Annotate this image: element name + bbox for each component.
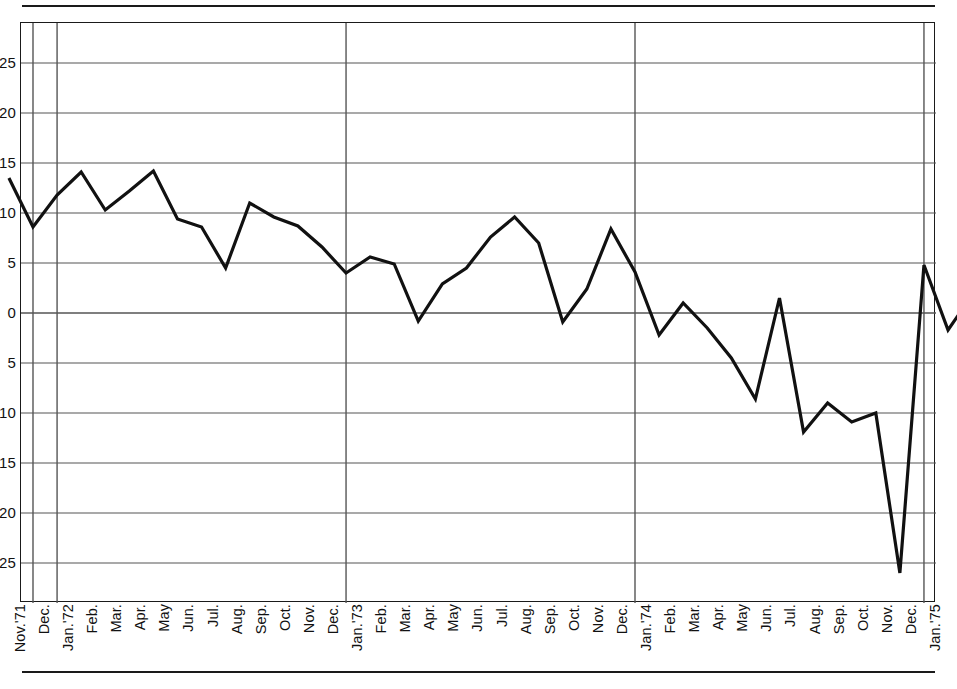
y-axis-tick-label: 25	[0, 55, 16, 70]
x-axis-tick-label: Dec.	[37, 604, 52, 634]
x-axis-tick-label: Jun.	[470, 604, 485, 632]
x-axis-tick-label: Aug.	[808, 604, 823, 634]
x-axis-tick-label: Jul.	[206, 604, 221, 627]
x-axis-tick-label: Nov.'71	[13, 604, 28, 652]
y-axis-tick-labels: 2520151050510152025	[0, 22, 16, 602]
series-line	[9, 171, 957, 573]
x-axis-tick-label: Nov.	[591, 604, 606, 633]
x-axis-tick-label: Dec.	[326, 604, 341, 634]
x-axis-tick-label: Jun.	[759, 604, 774, 632]
x-axis-tick-label: Jun.	[181, 604, 196, 632]
data-series-layer	[21, 23, 936, 603]
y-axis-tick-label: 20	[0, 105, 16, 120]
y-axis-tick-label: 15	[0, 455, 16, 470]
x-axis-tick-label: Jan.'73	[350, 604, 365, 651]
y-axis-tick-label: 5	[7, 255, 16, 270]
x-axis-tick-label: Apr.	[711, 604, 726, 630]
x-axis-tick-label: Nov.	[302, 604, 317, 633]
x-axis-tick-label: Feb.	[374, 604, 389, 633]
y-axis-tick-label: 20	[0, 505, 16, 520]
x-axis-tick-label: May	[735, 604, 750, 632]
x-axis-tick-label: Sep.	[832, 604, 847, 634]
x-axis-tick-label: May	[157, 604, 172, 632]
x-axis-tick-label: Feb.	[85, 604, 100, 633]
top-horizontal-rule	[22, 5, 935, 7]
x-axis-tick-label: Mar.	[109, 604, 124, 633]
x-axis-tick-label: Jan.'74	[639, 604, 654, 651]
y-axis-tick-label: 0	[7, 305, 16, 320]
x-axis-tick-label: Oct.	[567, 604, 582, 631]
x-axis-tick-label: Apr.	[422, 604, 437, 630]
x-axis-tick-labels: Nov.'71Dec.Jan.'72Feb.Mar.Apr.MayJun.Jul…	[20, 604, 935, 674]
x-axis-tick-label: Sep.	[254, 604, 269, 634]
x-axis-tick-label: Aug.	[519, 604, 534, 634]
y-axis-tick-label: 10	[0, 205, 16, 220]
x-axis-tick-label: Mar.	[398, 604, 413, 633]
x-axis-tick-label: Jul.	[783, 604, 798, 627]
x-axis-tick-label: Jan.'72	[61, 604, 76, 651]
x-axis-tick-label: Jul.	[495, 604, 510, 627]
x-axis-tick-label: Apr.	[133, 604, 148, 630]
x-axis-tick-label: Dec.	[904, 604, 919, 634]
y-axis-tick-label: 15	[0, 155, 16, 170]
line-chart-figure: 2520151050510152025 Nov.'71Dec.Jan.'72Fe…	[0, 0, 957, 689]
x-axis-tick-label: Dec.	[615, 604, 630, 634]
y-axis-tick-label: 25	[0, 555, 16, 570]
y-axis-tick-label: 10	[0, 405, 16, 420]
x-axis-tick-label: Feb.	[663, 604, 678, 633]
y-axis-tick-label: 5	[7, 355, 16, 370]
plot-area	[20, 22, 935, 602]
x-axis-tick-label: Sep.	[543, 604, 558, 634]
x-axis-tick-label: Mar.	[687, 604, 702, 633]
x-axis-tick-label: Oct.	[278, 604, 293, 631]
x-axis-tick-label: Aug.	[230, 604, 245, 634]
x-axis-tick-label: May	[446, 604, 461, 632]
x-axis-tick-label: Jan.'75	[928, 604, 943, 651]
x-axis-tick-label: Oct.	[856, 604, 871, 631]
x-axis-tick-label: Nov.	[880, 604, 895, 633]
